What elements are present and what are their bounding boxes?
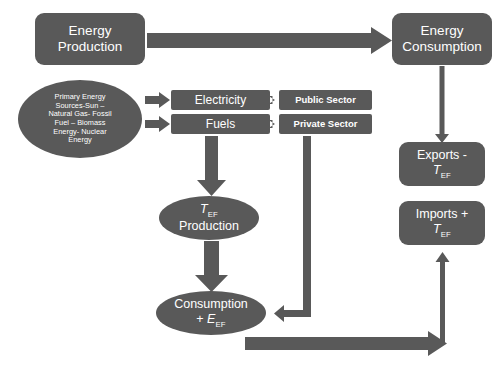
imports-line1: Imports +: [416, 207, 468, 221]
arrow-tef-production-to-consumption: [195, 241, 228, 292]
primary-energy-sources-label: Primary Energy Sources-Sun – Natural Gas…: [21, 93, 139, 145]
exports-symbol: T: [433, 163, 441, 177]
node-primary-energy-sources[interactable]: Primary Energy Sources-Sun – Natural Gas…: [18, 80, 142, 158]
primary-sources-line4: Fuel – Biomass: [55, 118, 106, 127]
energy-consumption-line1: Energy: [421, 23, 464, 38]
energy-production-line2: Production: [58, 39, 123, 54]
primary-sources-line6: Energy: [68, 135, 91, 144]
arrow-sources-to-electricity: [145, 92, 170, 108]
energy-production-label: Energy Production: [38, 23, 142, 55]
energy-consumption-line2: Consumption: [402, 39, 482, 54]
arrow-bottom-to-imports-horizontal: [245, 331, 447, 356]
imports-symbol: T: [433, 222, 441, 236]
imports-subscript: EF: [441, 230, 451, 239]
tef-production-line2: Production: [179, 219, 239, 233]
arrow-consumption-to-exports: [435, 66, 449, 143]
exports-subscript: EF: [441, 171, 451, 180]
consumption-subscript: EF: [215, 320, 225, 329]
arrow-sources-to-fuels: [145, 116, 170, 132]
tef-production-subscript: EF: [208, 210, 218, 219]
fuels-label: Fuels: [174, 117, 267, 131]
public-sector-label: Public Sector: [282, 94, 369, 105]
electricity-label: Electricity: [174, 93, 267, 107]
arrow-fuels-to-tef-production: [197, 136, 226, 196]
energy-production-line1: Energy: [69, 23, 112, 38]
node-tef-production[interactable]: TEF Production: [159, 196, 259, 240]
node-electricity[interactable]: Electricity: [171, 90, 270, 110]
tef-production-label: TEF Production: [162, 202, 256, 233]
primary-sources-line1: Primary Energy: [55, 92, 106, 101]
node-energy-consumption[interactable]: Energy Consumption: [392, 13, 492, 65]
primary-sources-line3: Natural Gas- Fossil: [48, 109, 111, 118]
exports-line1: Exports -: [417, 148, 467, 162]
exports-label: Exports - TEF: [402, 148, 482, 179]
consumption-plus: +: [196, 312, 207, 326]
primary-sources-line5: Energy- Nuclear: [53, 127, 106, 136]
node-fuels[interactable]: Fuels: [171, 114, 270, 134]
primary-sources-line2: Sources-Sun –: [56, 101, 105, 110]
node-energy-production[interactable]: Energy Production: [35, 13, 145, 65]
arrow-up-to-imports: [436, 252, 450, 343]
imports-label: Imports + TEF: [402, 207, 482, 238]
arrow-private-sector-to-consumption: [274, 136, 311, 322]
tef-production-symbol: T: [200, 202, 208, 216]
energy-consumption-label: Energy Consumption: [395, 23, 489, 55]
consumption-label: Consumption + EEF: [159, 297, 263, 328]
node-public-sector[interactable]: Public Sector: [279, 90, 372, 110]
node-exports[interactable]: Exports - TEF: [399, 142, 485, 186]
node-private-sector[interactable]: Private Sector: [279, 114, 372, 134]
node-imports[interactable]: Imports + TEF: [399, 201, 485, 245]
node-consumption[interactable]: Consumption + EEF: [156, 291, 266, 335]
private-sector-label: Private Sector: [282, 118, 369, 129]
arrow-production-to-consumption: [147, 27, 392, 54]
diagram-canvas: Energy Production Energy Consumption Pri…: [0, 0, 502, 366]
consumption-line1: Consumption: [174, 297, 248, 311]
